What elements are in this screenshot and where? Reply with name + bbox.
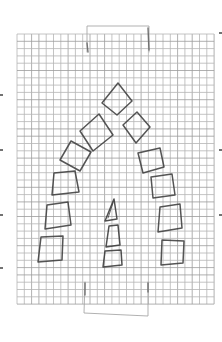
left-edge-mark-1 — [0, 94, 3, 96]
right-edge-mark-2 — [219, 149, 222, 151]
obelisk-middle-trapezoid — [106, 225, 120, 247]
top-tab-left-accent — [87, 43, 88, 52]
arch-square-right-5 — [161, 240, 184, 265]
right-edge-mark-3 — [219, 214, 222, 216]
arch-square-right-2 — [138, 148, 164, 173]
arch-square-apex — [102, 83, 132, 115]
arch-square-right-1 — [123, 112, 150, 143]
scanned-drawing-svg — [0, 0, 222, 342]
tab-layer — [84, 26, 149, 316]
arch-square-left-5 — [80, 114, 113, 151]
graph-paper-page — [0, 0, 222, 342]
left-edge-mark-4 — [0, 267, 3, 269]
left-edge-mark-2 — [0, 149, 3, 151]
arch-drawing-layer — [38, 83, 184, 267]
left-edge-mark-3 — [0, 214, 3, 216]
top-tab-right-accent — [148, 28, 149, 50]
right-edge-mark-1 — [219, 32, 222, 34]
arch-square-left-2 — [45, 202, 71, 229]
bottom-tab-outline — [84, 282, 148, 316]
arch-square-left-3 — [52, 171, 79, 195]
top-tab-outline — [87, 26, 149, 52]
grid-layer — [17, 34, 214, 304]
arch-square-left-1 — [38, 236, 63, 262]
